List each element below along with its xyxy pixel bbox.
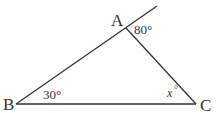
vertex-label-b: B bbox=[3, 95, 14, 113]
angle-label-c-var: x bbox=[166, 86, 173, 100]
edge-ac bbox=[126, 28, 196, 104]
vertex-label-a: A bbox=[111, 11, 124, 30]
angle-label-a: 80° bbox=[134, 22, 152, 37]
vertex-label-c: C bbox=[200, 96, 211, 113]
triangle-diagram: A B C 80° 30° x ° bbox=[0, 0, 216, 113]
angle-label-c-deg: ° bbox=[174, 84, 178, 95]
angle-label-b: 30° bbox=[43, 87, 61, 102]
edge-ba-extended bbox=[16, 6, 157, 104]
